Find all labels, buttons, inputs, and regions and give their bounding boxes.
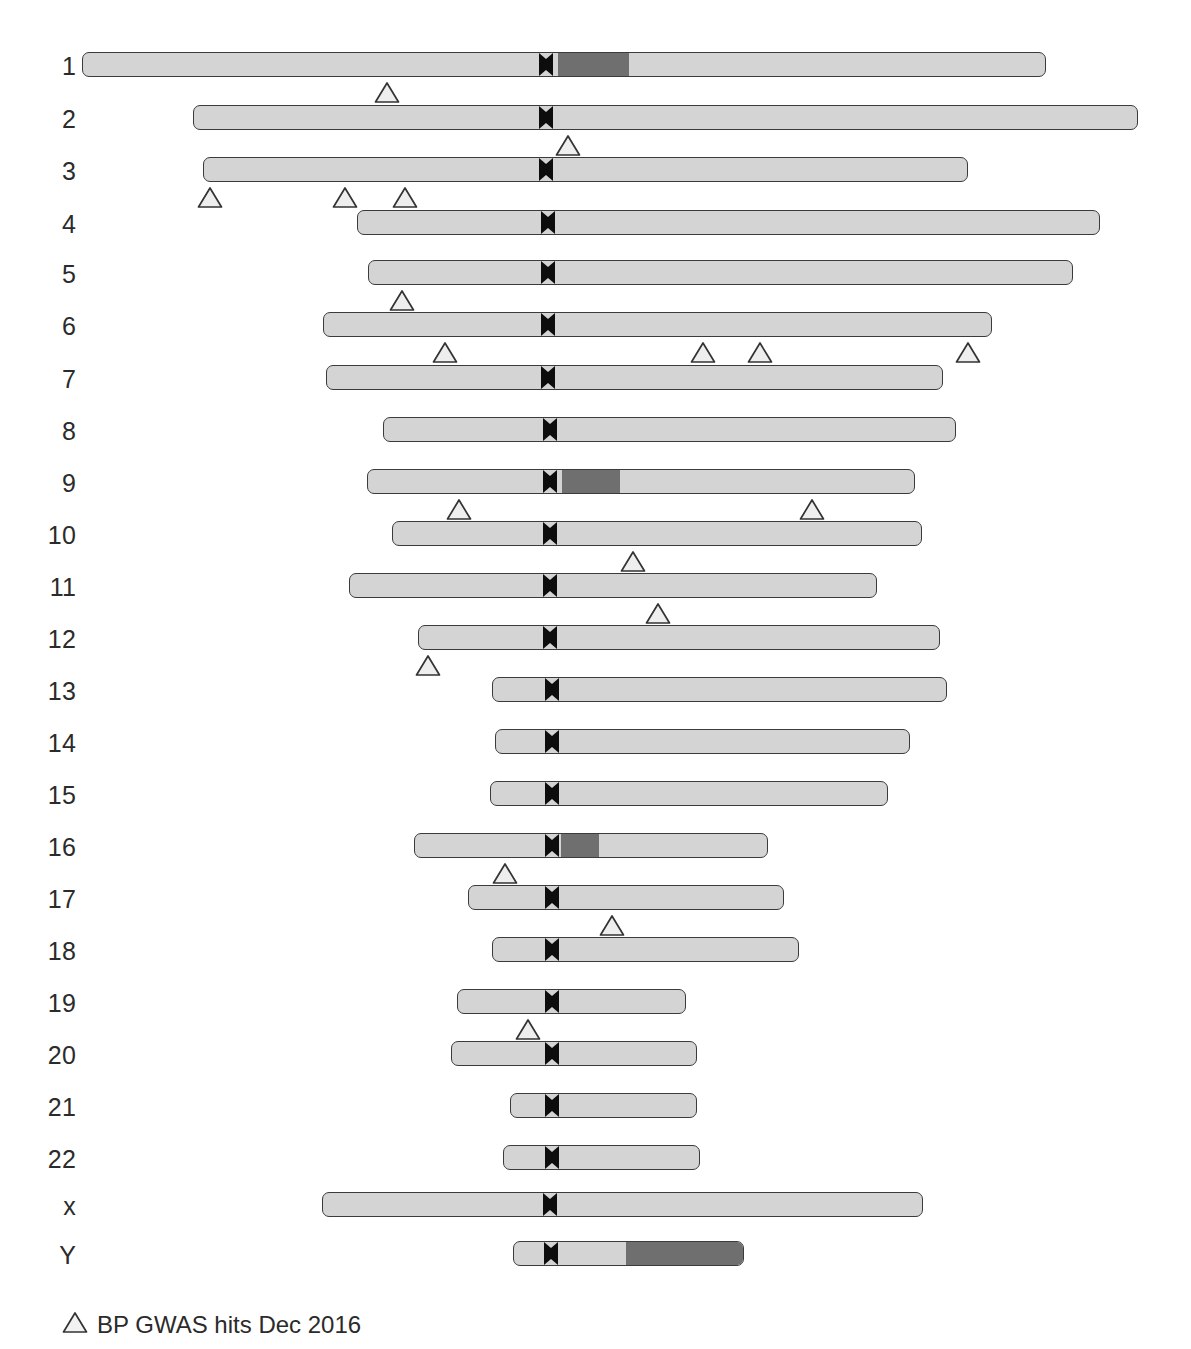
centromere-22 [545,1146,559,1169]
chromosome-label-12: 12 [30,627,76,652]
chromosome-body-8[interactable] [383,417,956,442]
chromosome-label-20: 20 [30,1043,76,1068]
chromosome-body-17[interactable] [468,885,784,910]
centromere-20 [545,1042,559,1065]
chromosome-label-4: 4 [40,212,76,237]
centromere-11 [543,574,557,597]
centromere-17 [545,886,559,909]
chromosome-label-15: 15 [30,783,76,808]
centromere-x [543,1193,557,1216]
chromosome-body-13[interactable] [492,677,947,702]
centromere-16 [545,834,559,857]
chromosome-body-1[interactable] [82,52,1046,77]
chromosome-label-2: 2 [40,107,76,132]
triangle-up-icon [62,1311,88,1338]
chromosome-body-6[interactable] [323,312,992,337]
chromosome-body-18[interactable] [492,937,799,962]
chromosome-label-19: 19 [30,991,76,1016]
chromosome-body-9[interactable] [367,469,915,494]
chromosome-label-1: 1 [40,54,76,79]
centromere-5 [541,261,555,284]
centromere-4 [541,211,555,234]
legend-label: BP GWAS hits Dec 2016 [97,1313,361,1337]
chromosome-body-4[interactable] [357,210,1100,235]
chromosome-label-x: x [30,1194,76,1219]
chromosome-label-13: 13 [30,679,76,704]
chromosome-body-22[interactable] [503,1145,700,1170]
chromosome-label-7: 7 [40,367,76,392]
chromosome-body-21[interactable] [510,1093,697,1118]
chromosome-label-17: 17 [30,887,76,912]
centromere-2 [539,106,553,129]
chromosome-label-14: 14 [30,731,76,756]
chromosome-body-12[interactable] [418,625,940,650]
centromere-14 [545,730,559,753]
chromosome-label-8: 8 [40,419,76,444]
heterochromatin-band [626,1242,744,1265]
chromosome-label-11: 11 [30,575,76,600]
centromere-15 [545,782,559,805]
chromosome-label-6: 6 [40,314,76,339]
legend: BP GWAS hits Dec 2016 [62,1311,361,1338]
chromosome-body-2[interactable] [193,105,1138,130]
chromosome-label-9: 9 [40,471,76,496]
chromosome-body-x[interactable] [322,1192,923,1217]
chromosome-label-16: 16 [30,835,76,860]
chromosome-label-5: 5 [40,262,76,287]
centromere-8 [543,418,557,441]
chromosome-label-3: 3 [40,159,76,184]
centromere-Y [544,1242,558,1265]
chromosome-label-22: 22 [30,1147,76,1172]
chromosome-body-5[interactable] [368,260,1073,285]
chromosome-body-20[interactable] [451,1041,697,1066]
centromere-13 [545,678,559,701]
chromosome-label-18: 18 [30,939,76,964]
centromere-3 [539,158,553,181]
chromosome-body-7[interactable] [326,365,943,390]
chromosome-body-16[interactable] [414,833,768,858]
heterochromatin-band [562,470,620,493]
chromosome-body-3[interactable] [203,157,968,182]
centromere-10 [543,522,557,545]
chromosome-label-21: 21 [30,1095,76,1120]
karyotype-figure: 12345678910111213141516171819202122xY BP… [0,0,1191,1349]
chromosome-label-Y: Y [30,1243,76,1268]
chromosome-body-11[interactable] [349,573,877,598]
chromosome-label-10: 10 [30,523,76,548]
heterochromatin-band [561,834,599,857]
centromere-19 [545,990,559,1013]
heterochromatin-band [558,53,629,76]
centromere-21 [545,1094,559,1117]
centromere-7 [541,366,555,389]
centromere-18 [545,938,559,961]
centromere-12 [543,626,557,649]
chromosome-body-10[interactable] [392,521,922,546]
centromere-6 [541,313,555,336]
chromosome-body-19[interactable] [457,989,686,1014]
centromere-9 [543,470,557,493]
centromere-1 [539,53,553,76]
